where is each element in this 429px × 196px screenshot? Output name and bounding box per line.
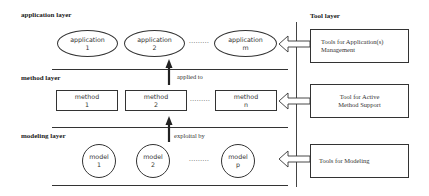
tool-application-line1: Tools for Application(s) [321, 38, 408, 46]
applied-to-label: applied to [177, 73, 203, 80]
tool-application-line2: Management [321, 46, 408, 54]
tool-method-arrow-icon [279, 93, 310, 109]
tool-application-arrow-icon [279, 36, 310, 52]
tool-active-method-support-box: Tool for Active Method Support [310, 84, 409, 118]
tool-modeling-arrow-icon [279, 151, 310, 167]
tool-modeling-line1: Tools for Modeling [319, 157, 408, 165]
tool-modeling-box: Tools for Modeling [310, 144, 409, 178]
exploited-by-label: exploital by [174, 132, 205, 139]
tool-method-line1: Tool for Active [340, 93, 380, 101]
exploited-by-arrow-icon [166, 116, 173, 142]
tool-application-management-box: Tools for Application(s) Management [310, 29, 409, 63]
applied-to-arrow-icon [166, 59, 173, 85]
tool-method-line2: Method Support [338, 101, 380, 109]
